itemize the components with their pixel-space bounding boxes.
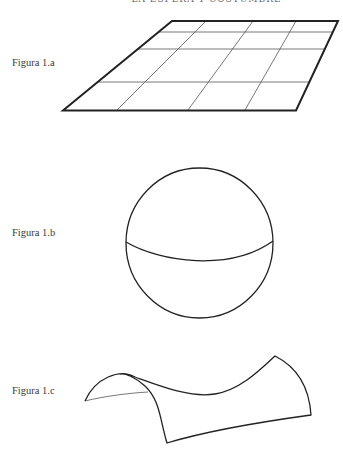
saddle-outline	[85, 356, 311, 443]
figure-1c-saddle	[0, 0, 343, 459]
saddle-hidden-edge	[85, 392, 148, 401]
